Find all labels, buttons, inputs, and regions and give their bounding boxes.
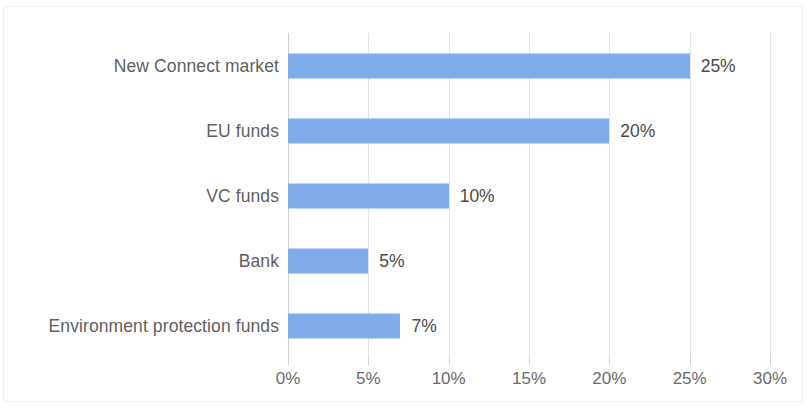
x-axis-tick-label: 10%: [432, 369, 466, 389]
x-axis-tick-mark: [529, 358, 530, 365]
bar: [288, 118, 609, 143]
x-axis-tick-mark: [770, 358, 771, 365]
plot-area: New Connect market25%EU funds20%VC funds…: [288, 33, 770, 358]
bar-row: VC funds10%: [288, 163, 770, 228]
x-axis-tick-label: 25%: [673, 369, 707, 389]
x-axis-tick-mark: [449, 358, 450, 365]
bar-row: Bank5%: [288, 228, 770, 293]
category-axis-label: Environment protection funds: [49, 315, 279, 336]
bar-row: EU funds20%: [288, 98, 770, 163]
x-axis-tick-mark: [288, 358, 289, 365]
bar-value-label: 7%: [411, 315, 436, 336]
bar-value-label: 25%: [701, 55, 736, 76]
x-axis-tick-mark: [690, 358, 691, 365]
bar-value-label: 10%: [460, 185, 495, 206]
x-axis-tick-label: 5%: [356, 369, 381, 389]
bar-row: New Connect market25%: [288, 33, 770, 98]
x-axis-tick-mark: [609, 358, 610, 365]
bar: [288, 53, 690, 78]
category-axis-label: New Connect market: [114, 55, 279, 76]
bar: [288, 248, 368, 273]
x-axis-tick-label: 15%: [512, 369, 546, 389]
x-axis-tick-label: 20%: [592, 369, 626, 389]
bar: [288, 183, 449, 208]
gridline: [770, 33, 771, 358]
category-axis-label: EU funds: [206, 120, 279, 141]
bar-value-label: 5%: [379, 250, 404, 271]
bar-row: Environment protection funds7%: [288, 293, 770, 358]
x-axis-tick-label: 30%: [753, 369, 787, 389]
x-axis-tick-mark: [368, 358, 369, 365]
bar-chart: New Connect market25%EU funds20%VC funds…: [0, 0, 809, 410]
bar-value-label: 20%: [620, 120, 655, 141]
x-axis-tick-label: 0%: [276, 369, 301, 389]
bar: [288, 313, 400, 338]
category-axis-label: Bank: [239, 250, 279, 271]
category-axis-label: VC funds: [206, 185, 279, 206]
